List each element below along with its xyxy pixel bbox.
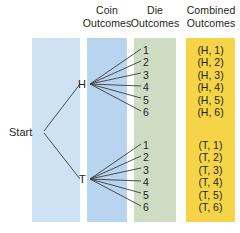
combined-outcome: (H, 2) xyxy=(187,56,234,68)
node-start: Start xyxy=(9,126,32,138)
die-outcome: 5 xyxy=(143,94,165,106)
die-outcome: 5 xyxy=(143,189,165,201)
combined-outcome: (H, 5) xyxy=(187,94,234,106)
die-outcome: 4 xyxy=(143,81,165,93)
node-heads: H xyxy=(78,78,86,90)
edge-tails-to-die-6 xyxy=(90,179,141,206)
die-outcome: 1 xyxy=(143,139,165,151)
combined-outcome: (T, 5) xyxy=(187,189,234,201)
combined-outcomes-tails-list: (T, 1) (T, 2) (T, 3) (T, 4) (T, 5) (T, 6… xyxy=(187,139,234,213)
node-tails: T xyxy=(79,173,86,185)
combined-outcome: (T, 3) xyxy=(187,164,234,176)
edge-heads-to-die-2 xyxy=(90,61,141,84)
combined-outcome: (H, 4) xyxy=(187,81,234,93)
die-outcome: 6 xyxy=(143,106,165,118)
probability-tree-diagram: Coin Outcomes Die Outcomes Combined Outc… xyxy=(0,0,240,233)
die-outcome: 2 xyxy=(143,56,165,68)
edge-tails-to-die-2 xyxy=(90,156,141,179)
combined-outcome: (H, 6) xyxy=(187,106,234,118)
die-outcome: 1 xyxy=(143,44,165,56)
edge-heads-to-die-6 xyxy=(90,84,141,111)
combined-outcome: (T, 2) xyxy=(187,151,234,163)
combined-outcome: (H, 1) xyxy=(187,44,234,56)
die-outcome: 6 xyxy=(143,201,165,213)
combined-outcome: (T, 1) xyxy=(187,139,234,151)
die-outcome: 4 xyxy=(143,176,165,188)
edge-start-to-heads xyxy=(44,84,80,131)
combined-outcome: (T, 4) xyxy=(187,176,234,188)
die-outcome: 2 xyxy=(143,151,165,163)
die-outcome: 3 xyxy=(143,164,165,176)
combined-outcomes-heads-list: (H, 1) (H, 2) (H, 3) (H, 4) (H, 5) (H, 6… xyxy=(187,44,234,118)
die-outcomes-heads-list: 1 2 3 4 5 6 xyxy=(143,44,165,118)
edge-start-to-tails xyxy=(44,133,80,179)
die-outcome: 3 xyxy=(143,69,165,81)
die-outcomes-tails-list: 1 2 3 4 5 6 xyxy=(143,139,165,213)
combined-outcome: (T, 6) xyxy=(187,201,234,213)
combined-outcome: (H, 3) xyxy=(187,69,234,81)
